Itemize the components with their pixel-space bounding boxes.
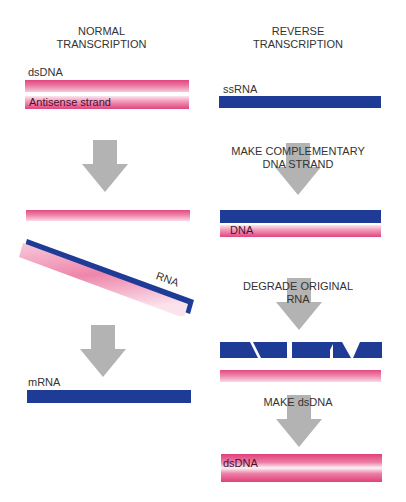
dna-sense-strand — [25, 80, 189, 92]
rna-template-strand — [220, 210, 381, 223]
down-arrow-icon — [80, 325, 126, 377]
dsdna-product: dsDNA — [221, 454, 382, 482]
step-text: RNA — [203, 293, 393, 306]
ssrna-strand — [219, 96, 381, 108]
step-text: DNA STRAND — [203, 158, 393, 171]
dna-label: DNA — [230, 224, 253, 236]
step-make-dsdna: MAKE dsDNA — [203, 396, 393, 409]
down-arrow-icon — [82, 140, 128, 192]
step-make-complementary: MAKE COMPLEMENTARY DNA STRAND — [203, 145, 393, 171]
mrna-label: mRNA — [28, 376, 60, 388]
normal-transcription-title: NORMAL TRANSCRIPTION — [0, 25, 203, 51]
step-text: MAKE COMPLEMENTARY — [203, 145, 393, 158]
title-line: TRANSCRIPTION — [0, 38, 203, 51]
dna-antisense-strand: Antisense strand — [25, 96, 189, 109]
mrna-strand — [27, 390, 191, 403]
antisense-label: Antisense strand — [29, 96, 111, 108]
dna-strand-separated — [26, 210, 190, 221]
cdna-strand-after-degradation — [220, 370, 381, 382]
title-line: NORMAL — [0, 25, 203, 38]
ssrna-label: ssRNA — [223, 83, 257, 95]
title-line: TRANSCRIPTION — [203, 38, 393, 51]
transcription-tilted-strands: RNA — [18, 238, 196, 316]
title-line: REVERSE — [203, 25, 393, 38]
degraded-rna-fragments — [220, 342, 382, 358]
cdna-strand: DNA — [220, 225, 381, 237]
step-degrade-rna: DEGRADE ORIGINAL RNA — [203, 280, 393, 306]
dsdna-label: dsDNA — [28, 66, 63, 78]
step-text: DEGRADE ORIGINAL — [203, 280, 393, 293]
dsdna-label: dsDNA — [223, 457, 258, 469]
reverse-transcription-title: REVERSE TRANSCRIPTION — [203, 25, 393, 51]
